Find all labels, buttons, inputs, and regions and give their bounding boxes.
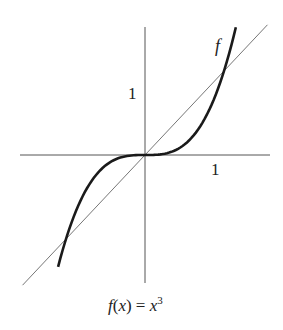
y-tick-label: 1: [128, 84, 137, 103]
caption-exponent: 3: [157, 294, 163, 306]
caption: f(x) = x3: [108, 294, 163, 315]
cubic-curve: [58, 27, 236, 267]
function-label: f: [215, 36, 223, 56]
cubic-function-figure: f 1 1 f(x) = x3: [0, 0, 283, 330]
x-tick-label: 1: [211, 160, 220, 179]
caption-eq: ) =: [126, 296, 150, 315]
